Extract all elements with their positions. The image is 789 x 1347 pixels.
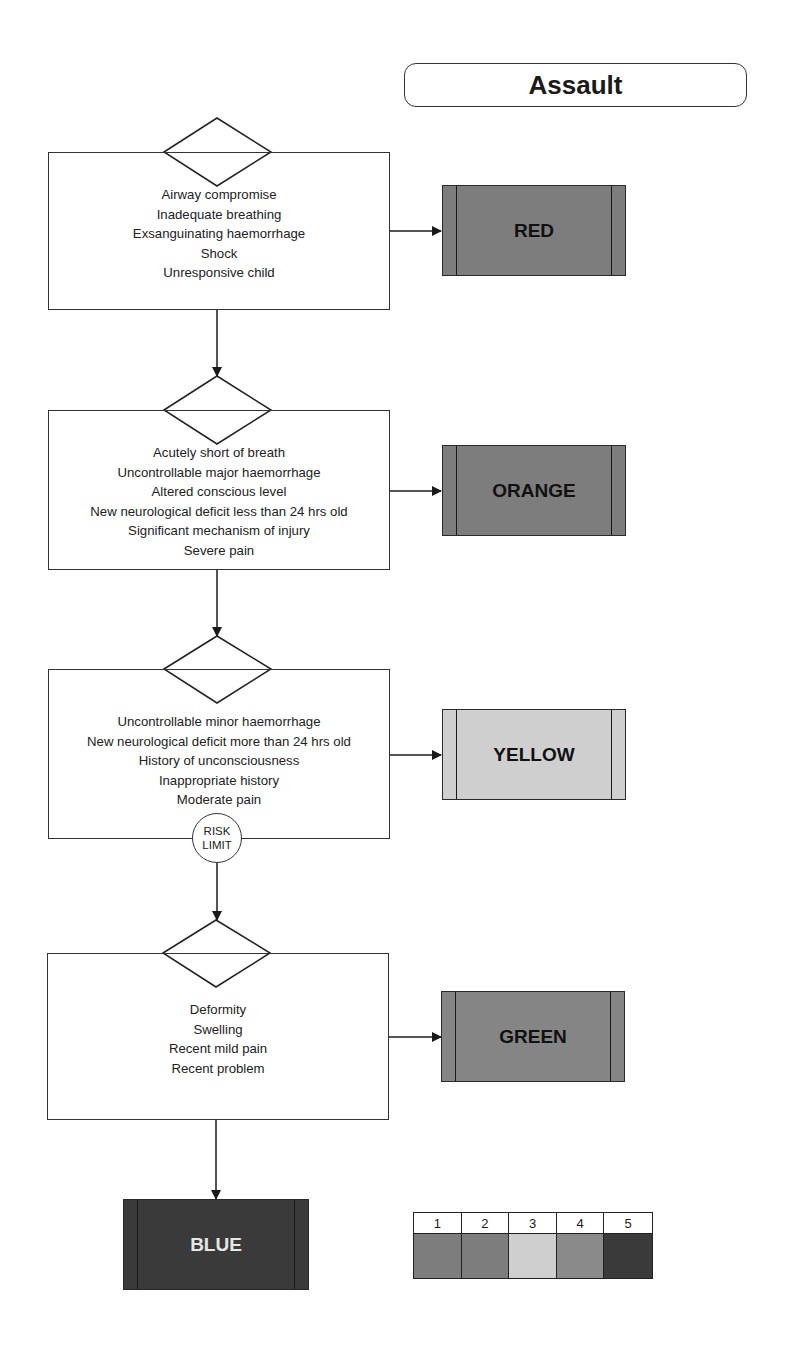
priority-legend: 1 2 3 4 5 (413, 1212, 653, 1279)
criterion: History of unconsciousness (48, 751, 390, 771)
legend-swatch-3 (509, 1234, 557, 1278)
criterion: Recent mild pain (47, 1039, 389, 1059)
legend-number: 4 (557, 1213, 605, 1234)
legend-swatch-2 (462, 1234, 510, 1278)
category-edge (611, 186, 612, 275)
criterion: Swelling (47, 1020, 389, 1040)
legend-swatch-1 (414, 1234, 462, 1278)
category-label: ORANGE (492, 480, 575, 502)
category-edge (611, 710, 612, 799)
legend-swatch-5 (604, 1234, 652, 1278)
criterion: Moderate pain (48, 790, 390, 810)
legend-number: 3 (509, 1213, 557, 1234)
category-red: RED (442, 185, 626, 276)
criterion: New neurological deficit more than 24 hr… (48, 732, 390, 752)
category-edge (456, 186, 457, 275)
criterion: New neurological deficit less than 24 hr… (48, 502, 390, 522)
criterion: Significant mechanism of injury (48, 521, 390, 541)
category-label: RED (514, 220, 554, 242)
criterion: Uncontrollable major haemorrhage (48, 463, 390, 483)
page-title: Assault (404, 63, 747, 107)
risk-limit-line2: LIMIT (202, 838, 231, 852)
legend-number: 5 (604, 1213, 652, 1234)
legend-number: 2 (462, 1213, 510, 1234)
category-edge (294, 1200, 295, 1289)
category-edge (456, 446, 457, 535)
category-blue: BLUE (123, 1199, 309, 1290)
criterion: Deformity (47, 1000, 389, 1020)
criterion: Unresponsive child (48, 263, 390, 283)
criterion: Uncontrollable minor haemorrhage (48, 712, 390, 732)
criterion: Severe pain (48, 541, 390, 561)
category-label: GREEN (499, 1026, 567, 1048)
criterion: Airway compromise (48, 185, 390, 205)
category-green: GREEN (441, 991, 625, 1082)
category-edge (611, 446, 612, 535)
legend-swatch-4 (557, 1234, 605, 1278)
risk-limit-marker: RISK LIMIT (192, 813, 242, 863)
criterion: Altered conscious level (48, 482, 390, 502)
criterion: Exsanguinating haemorrhage (48, 224, 390, 244)
category-edge (455, 992, 456, 1081)
category-label: BLUE (190, 1234, 242, 1256)
legend-number: 1 (414, 1213, 462, 1234)
criterion: Inadequate breathing (48, 205, 390, 225)
risk-limit-line1: RISK (204, 824, 231, 838)
criterion: Shock (48, 244, 390, 264)
category-orange: ORANGE (442, 445, 626, 536)
criterion: Inappropriate history (48, 771, 390, 791)
category-edge (456, 710, 457, 799)
criterion: Acutely short of breath (48, 443, 390, 463)
category-yellow: YELLOW (442, 709, 626, 800)
criterion: Recent problem (47, 1059, 389, 1079)
category-edge (610, 992, 611, 1081)
category-edge (137, 1200, 138, 1289)
category-label: YELLOW (493, 744, 574, 766)
